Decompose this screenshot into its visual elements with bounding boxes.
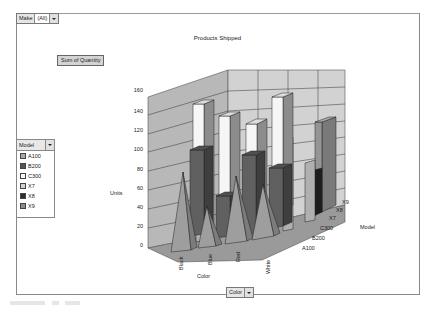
chevron-down-icon[interactable] [46,140,54,150]
svg-text:White: White [265,260,271,274]
legend-swatch [20,163,26,169]
svg-text:0: 0 [140,242,143,248]
chart-plot: 160 140 120 100 80 60 40 20 0 Units Blac… [0,0,435,310]
legend-swatch [20,183,26,189]
svg-text:140: 140 [134,108,143,114]
svg-text:B200: B200 [312,235,325,241]
legend: Model A100 B200 C300 X7 X8 X9 [16,139,55,218]
legend-label: A100 [28,153,41,159]
svg-text:120: 120 [134,127,143,133]
legend-item: X9 [17,201,54,211]
svg-text:X7: X7 [329,215,336,221]
svg-text:80: 80 [137,166,143,172]
legend-swatch [20,193,26,199]
svg-text:60: 60 [137,185,143,191]
legend-item: X7 [17,181,54,191]
svg-text:C300: C300 [320,225,333,231]
z-axis-label: Model [360,224,375,230]
series-field-model[interactable]: Model [17,140,54,151]
chevron-down-icon[interactable] [245,288,253,297]
legend-item: B200 [17,161,54,171]
legend-item: A100 [17,151,54,161]
y-axis-ticks: 160 140 120 100 80 60 40 20 0 [134,87,143,248]
legend-label: X9 [28,203,35,209]
legend-label: B200 [28,163,41,169]
y-axis-label: Units [110,190,123,196]
svg-text:Black: Black [178,256,184,270]
legend-item: C300 [17,171,54,181]
svg-text:X8: X8 [336,207,343,213]
category-field-label: Color [227,288,245,297]
legend-item: X8 [17,191,54,201]
svg-text:Blue: Blue [207,254,213,265]
svg-text:20: 20 [137,223,143,229]
svg-text:X9: X9 [342,199,349,205]
svg-text:A100: A100 [302,245,315,251]
legend-swatch [20,153,26,159]
legend-swatch [20,203,26,209]
figure-caption [10,301,80,305]
legend-label: C300 [28,173,41,179]
svg-text:Red: Red [235,252,241,262]
legend-title: Model [17,140,46,150]
legend-label: X8 [28,193,35,199]
category-field-color[interactable]: Color [226,287,254,298]
x-axis-label: Color [197,273,210,279]
legend-label: X7 [28,183,35,189]
legend-swatch [20,173,26,179]
svg-text:160: 160 [134,87,143,93]
svg-text:100: 100 [134,146,143,152]
svg-text:40: 40 [137,204,143,210]
